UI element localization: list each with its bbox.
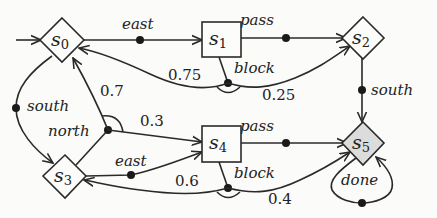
prob-s4-block-s5: 0.4: [268, 190, 292, 208]
block-arc-s4: [217, 192, 240, 198]
prob-s1-block-s0: 0.75: [168, 66, 201, 84]
action-dot-s4-pass: [282, 139, 290, 147]
label-s0-east: east: [122, 15, 155, 33]
action-dot-s0-east: [136, 36, 144, 44]
prob-s3-north-s4: 0.3: [140, 112, 164, 130]
state-s1: s1: [202, 22, 241, 57]
mdp-diagram: east pass block 0.75 0.25 south south no…: [0, 0, 437, 218]
action-dot-s0-south: [12, 104, 20, 112]
edge-s4-block-s3: [84, 180, 228, 194]
edge-s3-north-s4: [108, 130, 202, 142]
prob-s4-block-s3: 0.6: [175, 172, 199, 190]
label-s4-block: block: [234, 164, 275, 182]
state-s4: s4: [202, 126, 241, 162]
action-dot-s5-done: [358, 199, 366, 207]
label-s2-south: south: [371, 81, 413, 99]
block-arc-s1: [217, 87, 240, 93]
edge-s4-block: [219, 162, 228, 188]
action-dot-s2-south: [358, 86, 366, 94]
state-s2: s2: [342, 17, 384, 59]
label-s3-east: east: [115, 152, 148, 170]
prob-s1-block-s2: 0.25: [262, 86, 295, 104]
label-s4-pass: pass: [240, 117, 274, 135]
label-s1-pass: pass: [240, 11, 274, 29]
action-dot-s3-east: [127, 171, 135, 179]
label-s1-block: block: [234, 59, 275, 77]
action-dot-s1-pass: [282, 34, 290, 42]
label-s3-north: north: [48, 122, 90, 140]
state-s0: s0: [40, 18, 84, 62]
label-s0-south: south: [27, 97, 69, 115]
label-s5-done: done: [341, 171, 378, 189]
edge-s1-block: [219, 57, 228, 83]
prob-s3-north-s0: 0.7: [100, 82, 124, 100]
